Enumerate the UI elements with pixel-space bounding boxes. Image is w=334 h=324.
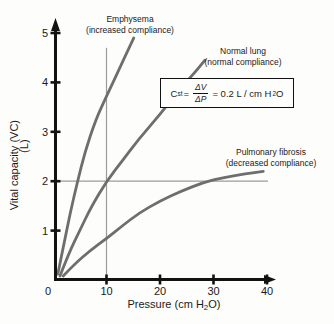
- pulmonary-fibrosis-curve-label: Pulmonary fibrosis (decreased compliance…: [210, 147, 332, 169]
- formula-symbol-subscript: st: [177, 90, 182, 97]
- formula-symbol: C: [171, 88, 178, 99]
- x-tick-label: 0: [45, 285, 51, 297]
- formula-result: = 0.2 L / cm H: [212, 88, 271, 99]
- y-tick-label: 1: [42, 225, 48, 237]
- emphysema-curve-label-line1: Emphysema: [70, 14, 190, 25]
- x-tick-label: 20: [154, 285, 166, 297]
- y-tick-label: 5: [42, 27, 48, 39]
- y-tick-label: 2: [42, 175, 48, 187]
- y-tick-label: 3: [42, 126, 48, 138]
- y-tick-label: 4: [42, 76, 48, 88]
- x-axis-title-end: O): [208, 298, 220, 310]
- emphysema-curve-label-line2: (increased compliance): [70, 25, 190, 36]
- x-axis-title: Pressure (cm H2O): [104, 297, 244, 313]
- formula-denominator: ΔP: [195, 94, 206, 104]
- y-axis-unit: (L): [17, 126, 31, 166]
- normal-lung-curve-label-line2: (normal compliance): [183, 57, 303, 68]
- pulmonary-fibrosis-curve-label-line2: (decreased compliance): [210, 158, 332, 169]
- pulmonary-fibrosis-curve: [63, 171, 263, 276]
- lung-compliance-figure: 12345010203040 Emphysema (increased comp…: [0, 0, 334, 324]
- compliance-formula-box: Cst = ΔV ΔP = 0.2 L / cm H2O: [160, 78, 294, 108]
- normal-lung-curve-label-line1: Normal lung: [183, 46, 303, 57]
- emphysema-curve: [58, 38, 134, 274]
- y-axis-arrowhead: [51, 18, 60, 31]
- x-tick-label: 40: [261, 285, 273, 297]
- x-tick-label: 30: [207, 285, 219, 297]
- formula-numerator: ΔV: [193, 82, 208, 93]
- x-axis-title-text: Pressure (cm H: [127, 298, 203, 310]
- formula-water-o: O: [276, 88, 283, 99]
- x-tick-label: 10: [100, 285, 112, 297]
- formula-equals-1: =: [183, 88, 189, 99]
- emphysema-curve-label: Emphysema (increased compliance): [70, 14, 190, 36]
- formula-fraction: ΔV ΔP: [193, 82, 208, 103]
- normal-lung-curve-label: Normal lung (normal compliance): [183, 46, 303, 68]
- pulmonary-fibrosis-curve-label-line1: Pulmonary fibrosis: [210, 147, 332, 158]
